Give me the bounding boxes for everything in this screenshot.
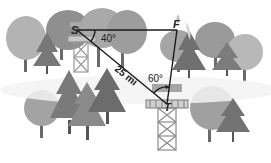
point-label-f: F [173,18,180,30]
point-label-s: S [71,24,79,36]
fire-tower-triangle-diagram: S F T 40° 60° 25 mi [0,0,271,163]
diagram-canvas: S F T 40° 60° 25 mi [0,0,271,163]
angle-label-s: 40° [101,33,116,44]
angle-label-t: 60° [148,73,163,84]
